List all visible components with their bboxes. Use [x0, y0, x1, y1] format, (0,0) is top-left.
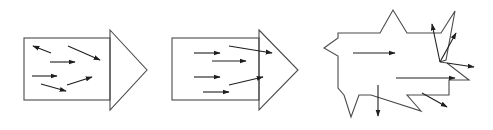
arrow-head-triangle	[110, 30, 147, 110]
vector-arrow-icon	[229, 77, 263, 85]
diagram-canvas	[0, 0, 493, 130]
vector-arrow-icon	[432, 24, 440, 62]
panel-2	[172, 30, 298, 110]
vector-arrow-icon	[68, 46, 100, 60]
panel-3	[324, 10, 474, 117]
vector-arrow-icon	[41, 84, 66, 91]
vector-arrow-icon	[440, 33, 456, 62]
panel-1	[24, 30, 147, 110]
vector-arrow-icon	[229, 46, 272, 53]
panels-group	[24, 10, 474, 117]
arrow-head-triangle	[259, 30, 298, 110]
vector-arrow-icon	[67, 77, 92, 85]
arrow-body-rect	[172, 38, 259, 100]
vector-arrow-icon	[33, 46, 51, 53]
